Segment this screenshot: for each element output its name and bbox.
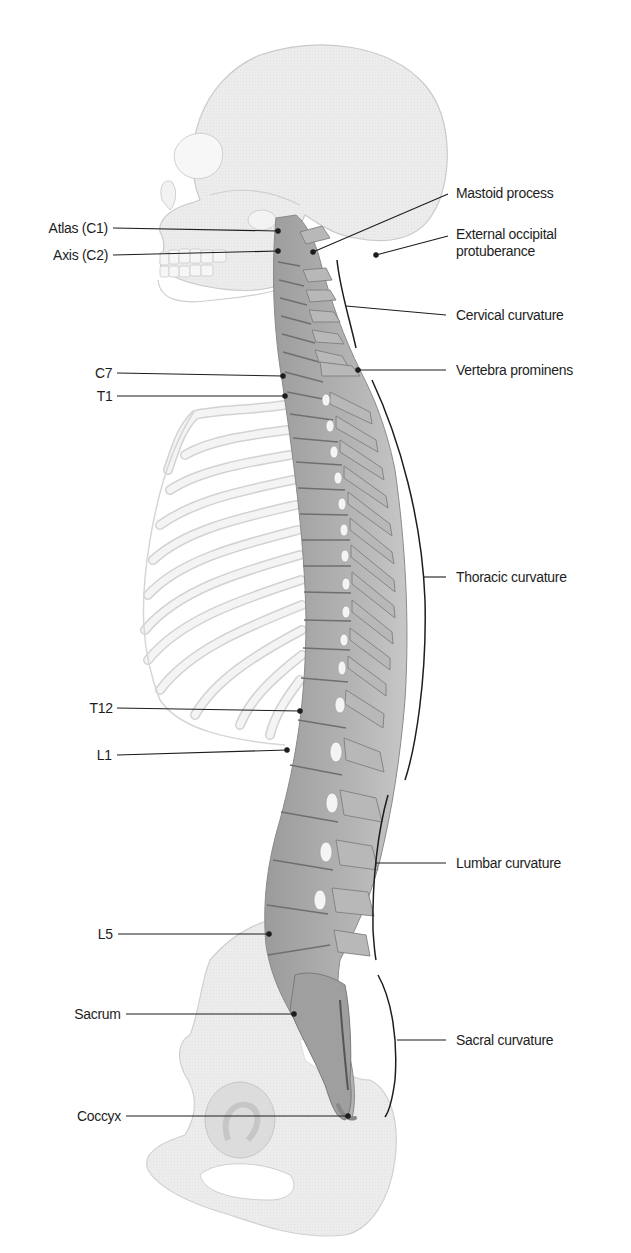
label-mastoid-process: Mastoid process — [456, 184, 554, 201]
label-c7: C7 — [95, 364, 112, 381]
label-thoracic-curvature: Thoracic curvature — [456, 568, 567, 585]
label-sacral-curvature: Sacral curvature — [456, 1031, 553, 1048]
label-sacrum: Sacrum — [75, 1005, 121, 1022]
label-l5: L5 — [98, 925, 113, 942]
label-external-occipital-line1: External occipital — [456, 225, 557, 242]
label-t12: T12 — [90, 699, 113, 716]
label-axis-c2: Axis (C2) — [53, 246, 108, 263]
label-vertebra-prominens: Vertebra prominens — [456, 361, 573, 378]
label-lumbar-curvature: Lumbar curvature — [456, 854, 561, 871]
label-cervical-curvature: Cervical curvature — [456, 306, 564, 323]
label-external-occipital-line2: protuberance — [456, 242, 535, 259]
label-atlas-c1: Atlas (C1) — [49, 219, 108, 236]
label-t1: T1 — [96, 387, 112, 404]
label-coccyx: Coccyx — [77, 1107, 121, 1124]
label-external-occipital-protuberance: External occipital protuberance — [456, 225, 557, 259]
label-l1: L1 — [97, 746, 112, 763]
